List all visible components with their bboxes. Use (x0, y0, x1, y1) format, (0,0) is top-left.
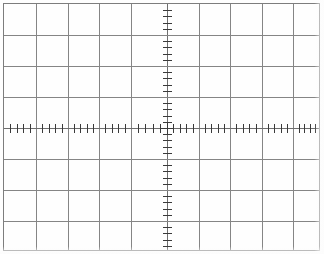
x-axis-minor-tick (274, 124, 275, 133)
y-axis-minor-tick (163, 209, 172, 210)
x-axis-minor-tick (112, 124, 113, 133)
oscilloscope-screen (0, 0, 324, 254)
horizontal-gridline-1 (4, 35, 319, 36)
y-axis-minor-tick (163, 240, 172, 241)
x-axis-minor-tick (125, 124, 126, 133)
y-axis-minor-tick (163, 184, 172, 185)
x-axis-minor-tick (80, 124, 81, 133)
y-axis-minor-tick (163, 91, 172, 92)
x-axis-minor-tick (315, 124, 316, 133)
y-axis-minor-tick (163, 72, 172, 73)
x-axis-minor-tick (243, 124, 244, 133)
y-axis-minor-tick (163, 202, 172, 203)
x-axis-minor-tick (105, 124, 106, 133)
x-axis-minor-tick (281, 124, 282, 133)
x-axis-minor-tick (299, 124, 300, 133)
x-axis-minor-tick (304, 124, 305, 133)
y-axis-minor-tick (163, 16, 172, 17)
origin-crosshair-horizontal (161, 128, 174, 129)
horizontal-gridline-6 (4, 190, 319, 191)
y-axis-minor-tick (163, 165, 172, 166)
y-axis-minor-tick (163, 78, 172, 79)
y-axis-minor-tick (163, 23, 172, 24)
x-axis-minor-tick (180, 124, 181, 133)
y-axis-minor-tick (163, 147, 172, 148)
y-axis-minor-tick (163, 109, 172, 110)
y-axis-minor-tick (163, 246, 172, 247)
x-axis-minor-tick (93, 124, 94, 133)
horizontal-gridline-3 (4, 97, 319, 98)
y-axis-minor-tick (163, 10, 172, 11)
x-axis-minor-tick (30, 124, 31, 133)
x-axis-minor-tick (211, 124, 212, 133)
x-axis-minor-tick (23, 124, 24, 133)
horizontal-gridline-5 (4, 159, 319, 160)
x-axis-minor-tick (17, 124, 18, 133)
horizontal-gridline-2 (4, 66, 319, 67)
y-axis-minor-tick (163, 171, 172, 172)
x-axis-minor-tick (55, 124, 56, 133)
x-axis-minor-tick (218, 124, 219, 133)
x-axis-minor-tick (62, 124, 63, 133)
y-axis-minor-tick (163, 103, 172, 104)
x-axis-minor-tick (87, 124, 88, 133)
x-axis-minor-tick (186, 124, 187, 133)
x-axis-minor-tick (138, 124, 139, 133)
vertical-gridline-9 (293, 4, 294, 250)
vertical-gridline-4 (131, 4, 132, 250)
vertical-gridline-7 (230, 4, 231, 250)
y-axis-minor-tick (163, 116, 172, 117)
x-axis-minor-tick (205, 124, 206, 133)
x-axis-minor-tick (287, 124, 288, 133)
vertical-gridline-3 (99, 4, 100, 250)
y-axis-minor-tick (163, 54, 172, 55)
x-axis-minor-tick (153, 124, 154, 133)
vertical-gridline-8 (262, 4, 263, 250)
x-axis-minor-tick (249, 124, 250, 133)
graticule-grid (3, 3, 320, 251)
y-axis-minor-tick (163, 60, 172, 61)
x-axis-minor-tick (145, 124, 146, 133)
y-axis-minor-tick (163, 140, 172, 141)
x-axis-minor-tick (118, 124, 119, 133)
x-axis-minor-tick (74, 124, 75, 133)
x-axis-minor-tick (224, 124, 225, 133)
y-axis-minor-tick (163, 196, 172, 197)
vertical-gridline-1 (36, 4, 37, 250)
y-axis-minor-tick (163, 153, 172, 154)
y-axis-minor-tick (163, 29, 172, 30)
x-axis-minor-tick (256, 124, 257, 133)
y-axis-minor-tick (163, 178, 172, 179)
vertical-gridline-2 (68, 4, 69, 250)
vertical-gridline-6 (199, 4, 200, 250)
x-axis-minor-tick (193, 124, 194, 133)
y-axis-minor-tick (163, 47, 172, 48)
horizontal-gridline-7 (4, 221, 319, 222)
y-axis-minor-tick (163, 233, 172, 234)
x-axis-minor-tick (49, 124, 50, 133)
x-axis-minor-tick (236, 124, 237, 133)
x-axis-minor-tick (10, 124, 11, 133)
x-axis-minor-tick (310, 124, 311, 133)
y-axis-minor-tick (163, 85, 172, 86)
y-axis-minor-tick (163, 227, 172, 228)
y-axis-minor-tick (163, 41, 172, 42)
x-axis-minor-tick (268, 124, 269, 133)
x-axis-minor-tick (42, 124, 43, 133)
y-axis-minor-tick (163, 215, 172, 216)
